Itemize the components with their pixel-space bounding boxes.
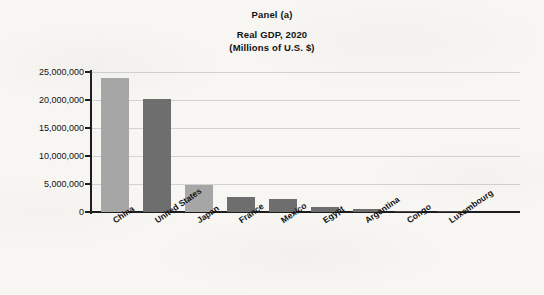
bar [101, 78, 129, 212]
bar-chart-figure: Panel (a) Real GDP, 2020 (Millions of U.… [0, 0, 544, 295]
bar [143, 99, 171, 212]
y-axis-tick-label: 25,000,000 [39, 67, 90, 77]
x-axis-labels: ChinaUnited StatesJapanFranceMexicoEgypt… [90, 213, 520, 293]
chart-subtitle: Real GDP, 2020 [0, 28, 544, 42]
y-axis-tick-label: 5,000,000 [44, 179, 90, 189]
bars-layer [90, 72, 520, 212]
chart-units-label: (Millions of U.S. $) [0, 41, 544, 55]
panel-label: Panel (a) [0, 8, 544, 22]
y-axis-tick-label: 15,000,000 [39, 123, 90, 133]
chart-title-block: Panel (a) Real GDP, 2020 (Millions of U.… [0, 8, 544, 55]
y-axis: 05,000,00010,000,00015,000,00020,000,000… [0, 72, 90, 212]
y-axis-tick-label: 20,000,000 [39, 95, 90, 105]
y-axis-tick-label: 10,000,000 [39, 151, 90, 161]
